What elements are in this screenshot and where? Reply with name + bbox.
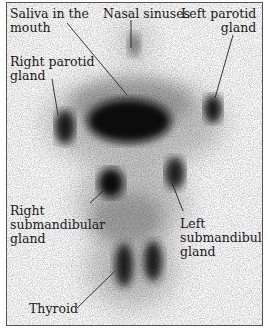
label-nasal-sinuses: Nasal sinuses	[103, 7, 190, 21]
scintigraphy-image	[7, 3, 262, 325]
label-right-submandibular-gland: Right submandibular gland	[10, 204, 105, 246]
label-right-parotid-gland: Right parotid gland	[10, 55, 94, 83]
label-thyroid: Thyroid	[29, 302, 78, 316]
label-left-parotid-gland: Left parotid gland	[181, 7, 256, 35]
label-left-submandibular-gland: Left submandibular gland	[180, 217, 263, 259]
scan-figure-frame: Saliva in the mouth Nasal sinuses Left p…	[6, 2, 263, 326]
label-saliva-in-mouth: Saliva in the mouth	[10, 7, 89, 35]
